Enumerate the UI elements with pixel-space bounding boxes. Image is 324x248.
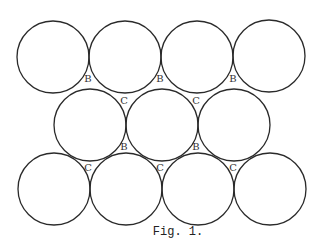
gap-label-b: B xyxy=(229,73,236,84)
gap-label-c: C xyxy=(120,95,128,106)
circle-row3 xyxy=(90,153,162,225)
circle-row2 xyxy=(198,89,270,161)
circle-row2 xyxy=(126,89,198,161)
gap-label-c: C xyxy=(229,162,237,173)
gap-label-c: C xyxy=(156,162,164,173)
gap-label-b: B xyxy=(84,73,91,84)
circle-row2 xyxy=(54,89,126,161)
gap-label-b: B xyxy=(120,141,127,152)
gap-label-b: B xyxy=(192,141,199,152)
gap-label-c: C xyxy=(84,162,92,173)
gap-label-b: B xyxy=(156,73,163,84)
gap-label-c: C xyxy=(192,95,200,106)
figure-caption: Fig. 1. xyxy=(0,225,324,239)
circle-row1 xyxy=(17,21,89,93)
circle-row1 xyxy=(161,21,233,93)
circle-row3 xyxy=(234,153,306,225)
circle-row3 xyxy=(162,153,234,225)
circle-row1 xyxy=(89,21,161,93)
circle-row3 xyxy=(18,153,90,225)
circle-packing-diagram: BBBCCBBCCC xyxy=(0,0,324,248)
circle-row1 xyxy=(233,20,305,92)
